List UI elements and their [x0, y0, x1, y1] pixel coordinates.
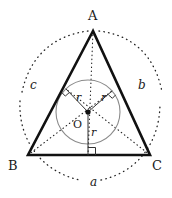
radius-label-b: r — [101, 92, 106, 103]
figure-canvas — [0, 0, 172, 198]
vertex-label-c: C — [152, 159, 162, 172]
radius-label-a: r — [91, 127, 96, 138]
radius-label-c: r — [76, 92, 81, 103]
side-label-c: c — [30, 79, 37, 91]
side-label-b: b — [138, 79, 146, 91]
geometry-figure: A B C O r r r a b c — [0, 0, 172, 198]
vertex-label-b: B — [8, 159, 18, 172]
arc-group — [20, 31, 162, 180]
triangle-outline — [28, 31, 150, 155]
incenter-label-o: O — [73, 119, 82, 130]
right-angle-group — [62, 93, 116, 155]
bisector-from-b — [28, 91, 112, 155]
right-angle-marker-b-icon — [109, 95, 116, 98]
right-angle-marker-c-icon — [62, 93, 69, 96]
radius-line-b — [88, 91, 112, 112]
bisector-group — [28, 31, 150, 155]
side-label-a: a — [90, 176, 97, 188]
incenter-point — [85, 109, 90, 114]
vertex-label-a: A — [88, 9, 97, 22]
triangle — [28, 31, 150, 155]
